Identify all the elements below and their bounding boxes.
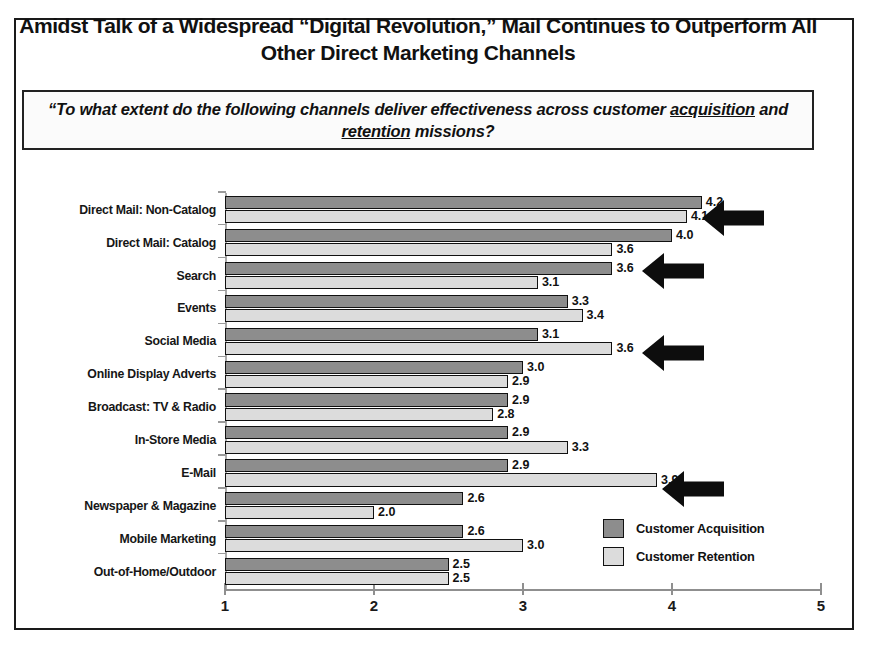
- legend-label-acquisition: Customer Acquisition: [636, 521, 764, 536]
- subtitle-part-1: “To what extent do the following channel…: [48, 100, 670, 118]
- subtitle-part-3: missions?: [410, 122, 494, 140]
- subtitle-underline-retention: retention: [342, 122, 411, 140]
- chart-title: Amidst Talk of a Widespread “Digital Rev…: [18, 12, 818, 67]
- legend-item-retention: Customer Retention: [603, 547, 833, 566]
- subtitle-box: “To what extent do the following channel…: [22, 90, 814, 150]
- subtitle-part-2: and: [755, 100, 788, 118]
- legend-swatch-acquisition: [603, 519, 624, 538]
- legend-item-acquisition: Customer Acquisition: [603, 519, 833, 538]
- legend-label-retention: Customer Retention: [636, 549, 755, 564]
- legend-swatch-retention: [603, 547, 624, 566]
- subtitle-underline-acquisition: acquisition: [670, 100, 755, 118]
- subtitle-text: “To what extent do the following channel…: [24, 98, 812, 143]
- chart-legend: Customer Acquisition Customer Retention: [603, 519, 833, 575]
